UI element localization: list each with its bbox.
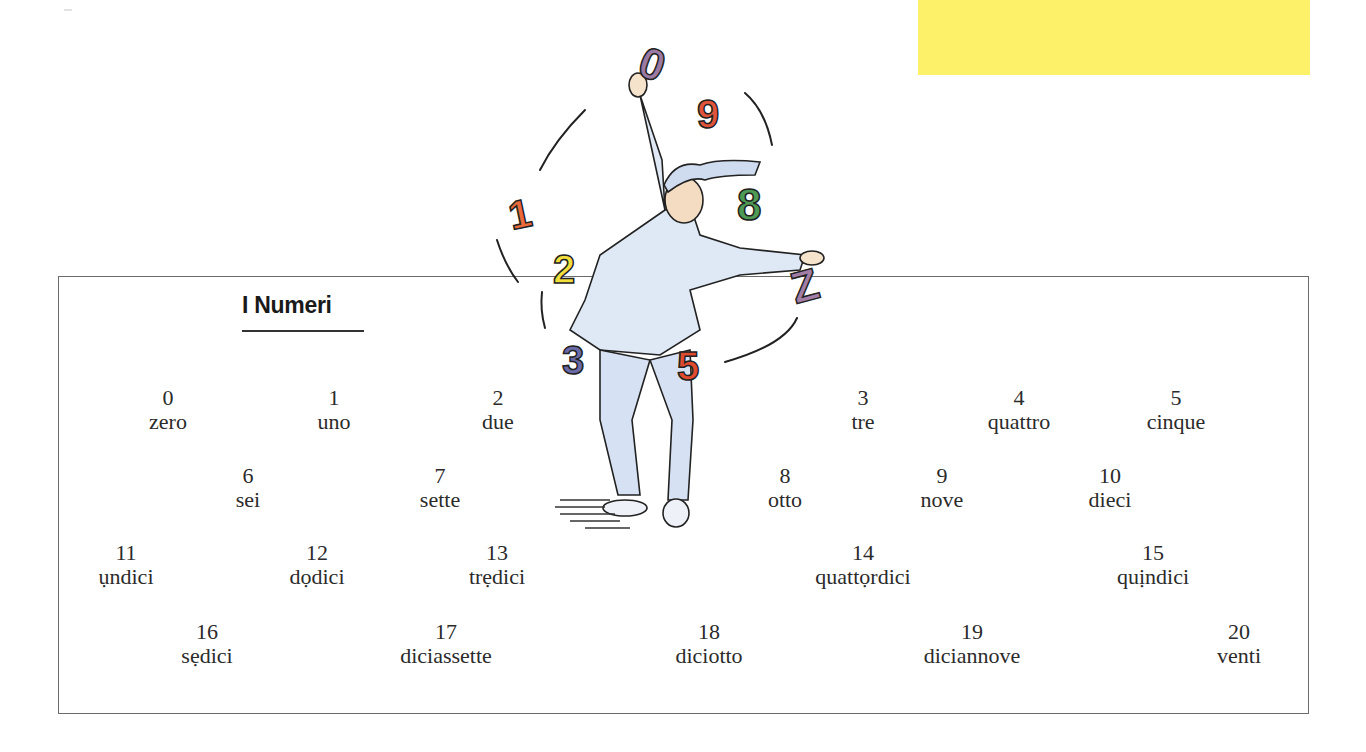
number-digit: 0	[149, 386, 187, 410]
number-entry: 2due	[482, 386, 514, 434]
number-digit: 7	[420, 464, 460, 488]
number-entry: 6sei	[236, 464, 260, 512]
numeral-8-icon: 8	[737, 180, 761, 229]
numeral-1-icon: 1	[505, 190, 536, 238]
number-digit: 19	[924, 620, 1021, 644]
numeral-2-icon: 2	[553, 247, 575, 291]
number-word: diciassette	[400, 644, 492, 668]
title-underline	[242, 330, 364, 332]
number-entry: 19diciannove	[924, 620, 1021, 668]
number-word: cinque	[1147, 410, 1206, 434]
number-digit: 9	[921, 464, 964, 488]
number-digit: 13	[469, 541, 525, 565]
number-word: uno	[318, 410, 351, 434]
number-word: sẹdici	[181, 644, 232, 668]
number-digit: 1	[318, 386, 351, 410]
number-word: sette	[420, 488, 460, 512]
number-word: zero	[149, 410, 187, 434]
number-entry: 17diciassette	[400, 620, 492, 668]
numeral-9-icon: 9	[697, 92, 719, 136]
number-entry: 12dọdici	[290, 541, 345, 589]
number-entry: 4quattro	[988, 386, 1050, 434]
number-digit: 2	[482, 386, 514, 410]
number-entry: 1uno	[318, 386, 351, 434]
number-entry: 11ụndici	[99, 541, 154, 589]
number-digit: 16	[181, 620, 232, 644]
number-digit: 10	[1089, 464, 1132, 488]
number-entry: 10dieci	[1089, 464, 1132, 512]
number-word: otto	[768, 488, 802, 512]
number-digit: 4	[988, 386, 1050, 410]
number-entry: 13trẹdici	[469, 541, 525, 589]
number-word: trẹdici	[469, 565, 525, 589]
number-entry: 18diciotto	[675, 620, 742, 668]
number-entry: 0zero	[149, 386, 187, 434]
number-word: due	[482, 410, 514, 434]
numeral-7-icon: Z	[785, 258, 824, 312]
number-word: dọdici	[290, 565, 345, 589]
number-word: tre	[851, 410, 874, 434]
number-digit: 12	[290, 541, 345, 565]
number-word: venti	[1217, 644, 1261, 668]
number-digit: 15	[1117, 541, 1189, 565]
number-word: sei	[236, 488, 260, 512]
number-entry: 16sẹdici	[181, 620, 232, 668]
number-entry: 8otto	[768, 464, 802, 512]
number-word: nove	[921, 488, 964, 512]
number-entry: 7sette	[420, 464, 460, 512]
number-word: diciannove	[924, 644, 1021, 668]
number-word: quịndici	[1117, 565, 1189, 589]
number-digit: 5	[1147, 386, 1206, 410]
crop-mark	[64, 9, 72, 11]
numeral-3-icon: 3	[562, 338, 584, 382]
number-entry: 9nove	[921, 464, 964, 512]
number-digit: 14	[815, 541, 910, 565]
page-title: I Numeri	[242, 292, 332, 319]
number-word: ụndici	[99, 565, 154, 589]
number-digit: 3	[851, 386, 874, 410]
number-digit: 6	[236, 464, 260, 488]
juggler-illustration: 0 9 8 1 2 Z 3 5	[470, 40, 870, 540]
numeral-0-icon: 0	[632, 40, 672, 91]
number-entry: 15quịndici	[1117, 541, 1189, 589]
number-word: diciotto	[675, 644, 742, 668]
number-word: dieci	[1089, 488, 1132, 512]
number-entry: 5cinque	[1147, 386, 1206, 434]
number-entry: 3tre	[851, 386, 874, 434]
number-entry: 14quattọrdici	[815, 541, 910, 589]
number-word: quattọrdici	[815, 565, 910, 589]
number-word: quattro	[988, 410, 1050, 434]
number-digit: 11	[99, 541, 154, 565]
number-digit: 20	[1217, 620, 1261, 644]
number-digit: 18	[675, 620, 742, 644]
number-digit: 8	[768, 464, 802, 488]
numeral-5-icon: 5	[677, 344, 699, 388]
number-entry: 20venti	[1217, 620, 1261, 668]
jester-figure	[570, 73, 824, 527]
yellow-color-block	[918, 0, 1310, 75]
number-digit: 17	[400, 620, 492, 644]
